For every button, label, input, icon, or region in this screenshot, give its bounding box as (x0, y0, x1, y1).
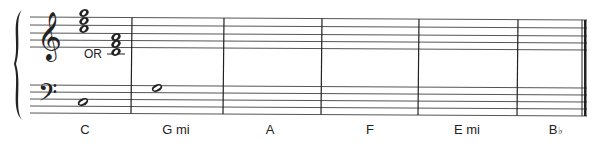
chord-label-text: B (549, 122, 558, 137)
bass-clef-icon: 𝄢 (38, 78, 57, 113)
grand-staff: 𝄞𝄢 (0, 0, 599, 152)
half-note-G3 (150, 82, 163, 93)
chord-label-text: F (366, 122, 374, 137)
chord-label: B♭ (549, 122, 564, 137)
chord-label-text: C (80, 122, 89, 137)
chord-label: A (266, 122, 275, 137)
staff-line (30, 106, 587, 109)
chord-label: C (80, 122, 89, 137)
staff-line (30, 25, 587, 28)
chord-label: E mi (454, 122, 480, 137)
brace-icon (14, 10, 22, 120)
chord-label: F (366, 122, 374, 137)
brace-icon (14, 10, 22, 120)
staff-line (30, 99, 587, 102)
chord-label-text: A (266, 122, 275, 137)
clefs: 𝄞𝄢 (37, 11, 62, 113)
whole-note-G5 (78, 8, 90, 19)
staff-line (30, 85, 587, 88)
chord-label-text: E mi (454, 122, 480, 137)
staff-line (30, 113, 587, 116)
staff-line (30, 92, 587, 95)
treble-clef-icon: 𝄞 (37, 11, 62, 62)
whole-note-C4 (110, 47, 122, 58)
staff-line (30, 17, 587, 20)
final-barline-thick (584, 20, 587, 116)
chord-label-text: G mi (162, 122, 189, 137)
flat-icon: ♭ (558, 125, 563, 136)
or-text: OR (84, 47, 102, 61)
chord-label: G mi (162, 122, 189, 137)
staff-lines (30, 17, 587, 116)
